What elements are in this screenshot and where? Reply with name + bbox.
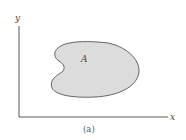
- area-diagram: y x A (a): [0, 0, 186, 140]
- figure-caption: (a): [83, 124, 95, 134]
- y-axis-label: y: [14, 13, 21, 23]
- region-a-shape: [51, 42, 139, 98]
- region-a-label: A: [80, 54, 88, 64]
- x-axis-label: x: [170, 112, 175, 122]
